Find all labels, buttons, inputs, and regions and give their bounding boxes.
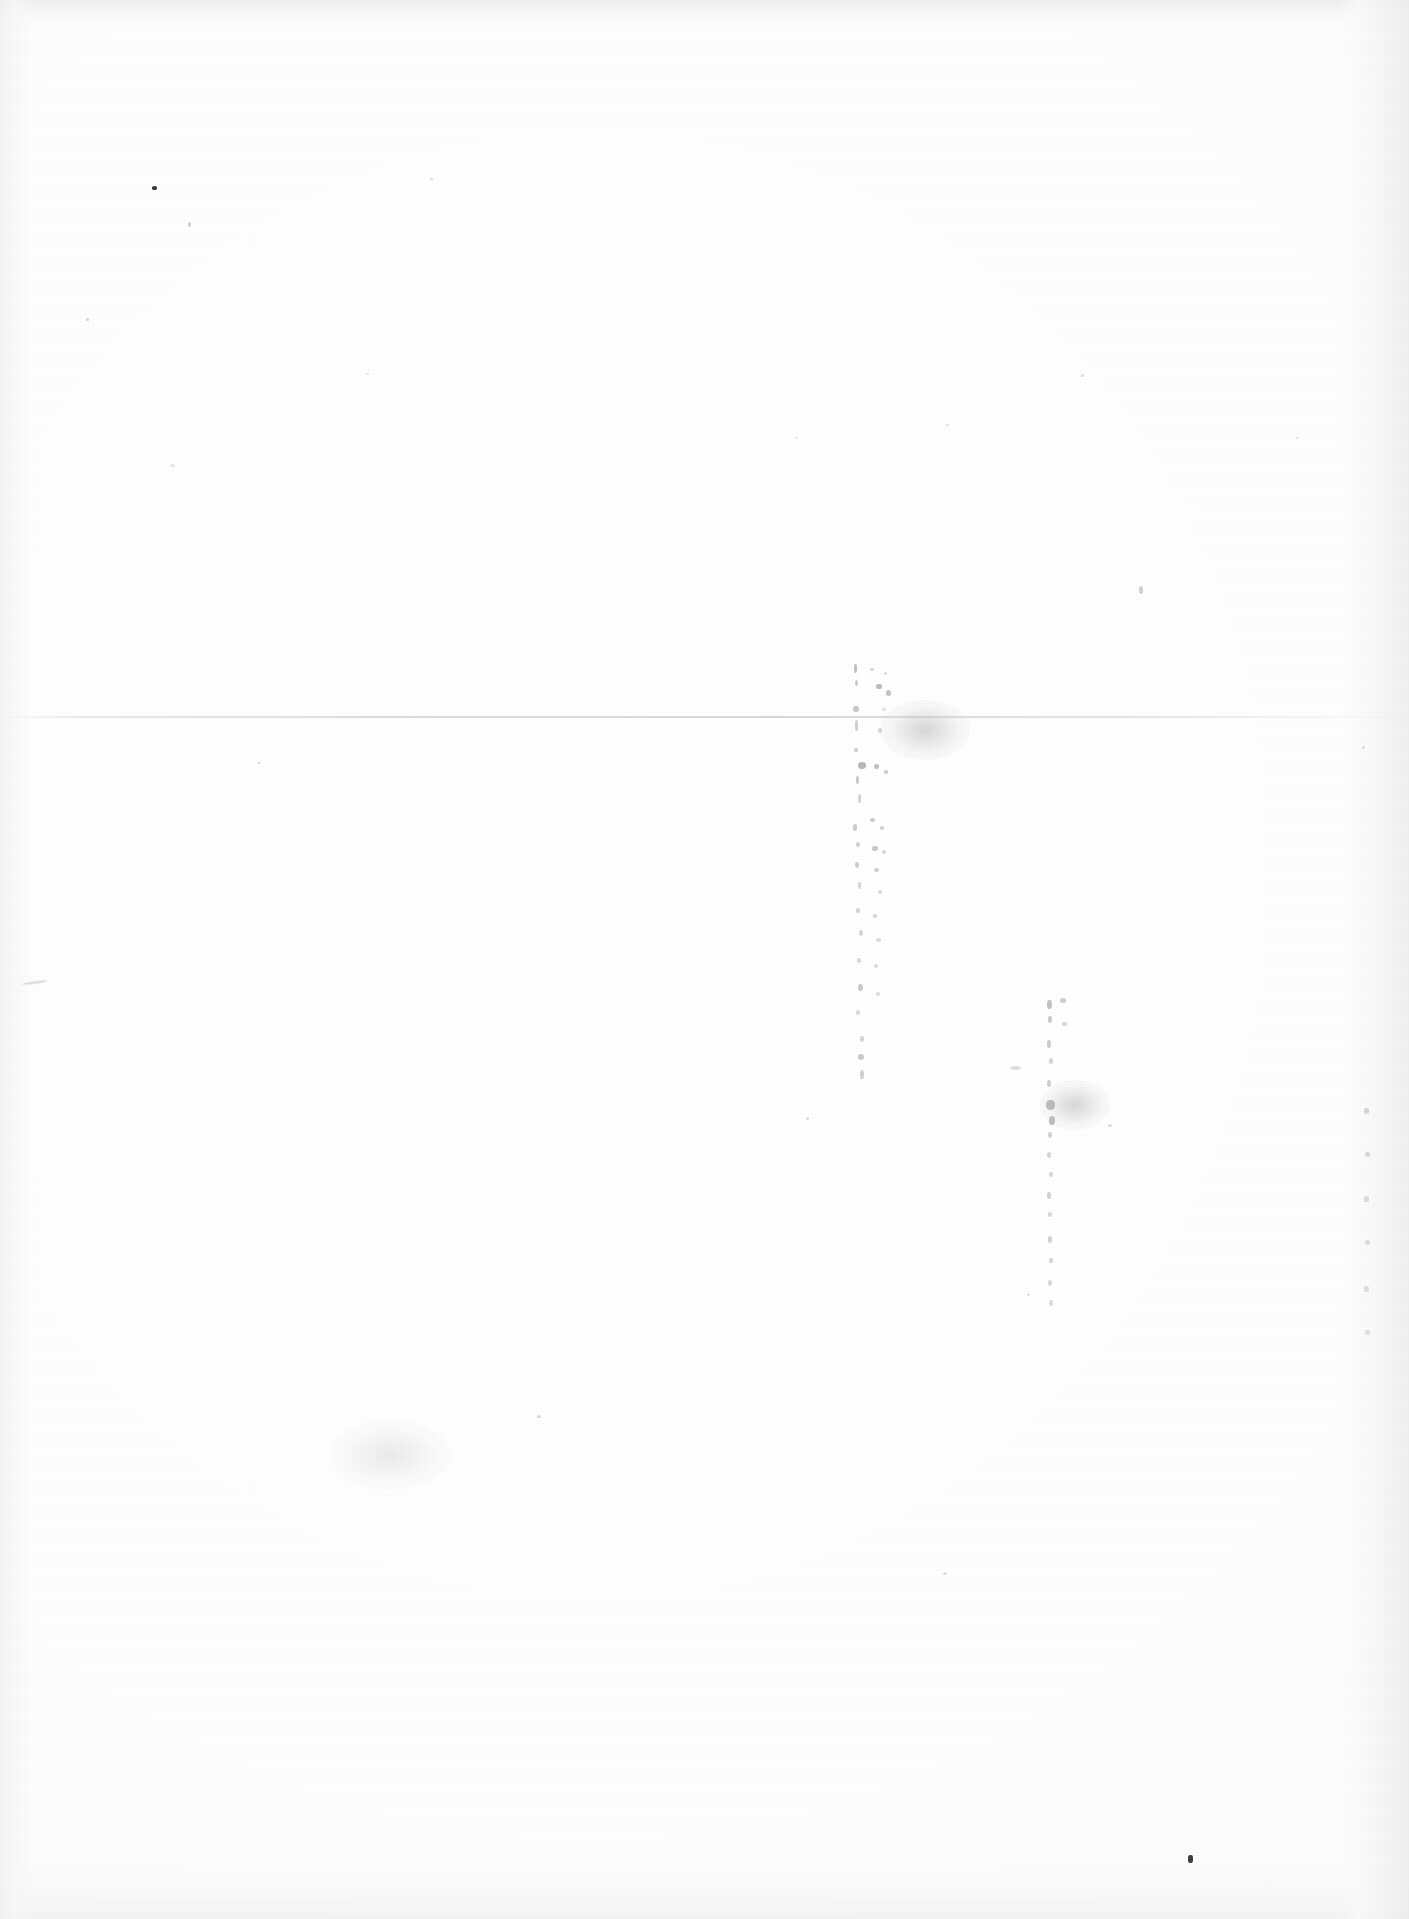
- ink-speck: [795, 437, 798, 439]
- ink-speck: [257, 762, 261, 764]
- ink-speck: [366, 373, 369, 375]
- ink-speck: [1108, 1124, 1112, 1127]
- ink-speck: [1296, 437, 1299, 439]
- ink-speck: [1010, 1066, 1021, 1070]
- ink-speck: [1081, 374, 1084, 377]
- ink-speck: [943, 1572, 947, 1575]
- paper-smudge: [880, 700, 970, 760]
- left-scan-edge: [0, 0, 34, 1919]
- paper-smudge: [330, 1420, 450, 1490]
- show-through-column-right: [1042, 996, 1094, 1316]
- ink-speck: [152, 186, 157, 190]
- ink-speck: [430, 178, 433, 180]
- bottom-scan-edge: [0, 1859, 1409, 1919]
- ink-speck: [1139, 586, 1143, 594]
- ink-speck: [170, 464, 175, 467]
- show-through-column-margin: [1360, 1100, 1386, 1360]
- paper-background: [0, 0, 1409, 1919]
- horizontal-crease-line: [0, 716, 1409, 718]
- paper-smudge: [1040, 1080, 1110, 1130]
- ink-speck: [86, 318, 89, 321]
- ink-speck: [537, 1415, 541, 1418]
- ink-speck: [1027, 1293, 1030, 1296]
- ink-speck: [188, 222, 191, 227]
- scanned-document-page: [0, 0, 1409, 1919]
- top-scan-edge: [0, 0, 1409, 26]
- ink-speck: [1188, 1855, 1193, 1863]
- ink-speck: [806, 1117, 809, 1120]
- right-scan-edge: [1339, 0, 1409, 1919]
- ink-speck: [946, 424, 949, 426]
- ink-speck: [1362, 746, 1365, 749]
